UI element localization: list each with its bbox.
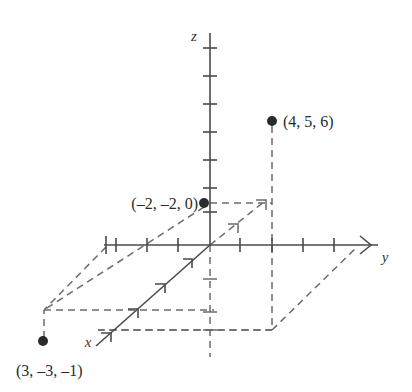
point-label-4-5-6: (4, 5, 6) bbox=[283, 113, 334, 131]
x-axis-negative-line bbox=[210, 201, 265, 245]
x-axis-negative bbox=[210, 200, 266, 245]
y-axis bbox=[104, 236, 378, 254]
plot-canvas: z y x (4, 5, 6) (–2, –2, 0) (3, –3, –1) bbox=[0, 0, 412, 392]
z-axis-positive bbox=[203, 33, 217, 245]
plotted-points bbox=[38, 116, 277, 346]
projection-guides bbox=[44, 126, 358, 338]
z-axis-label: z bbox=[190, 28, 197, 44]
point-label-3-neg3-neg1: (3, –3, –1) bbox=[16, 362, 83, 380]
guide-xyplane-456-to-y-axis bbox=[272, 246, 358, 330]
point-dot-3-neg3-neg1[interactable] bbox=[38, 336, 48, 346]
guide-diagonal-n2n20 bbox=[44, 207, 204, 310]
x-axis-positive-line bbox=[96, 245, 210, 346]
point-label-neg2-neg2-0: (–2, –2, 0) bbox=[131, 195, 198, 213]
x-axis-positive bbox=[96, 245, 210, 346]
x-axis-label: x bbox=[84, 334, 92, 350]
point-dot-4-5-6[interactable] bbox=[267, 116, 277, 126]
guide-left-diagonal-lower bbox=[44, 247, 106, 310]
x-tick-pos-1 bbox=[183, 259, 192, 268]
y-axis-label: y bbox=[380, 249, 389, 265]
z-axis-negative bbox=[203, 245, 217, 357]
coordinate-system-figure: z y x (4, 5, 6) (–2, –2, 0) (3, –3, –1) bbox=[0, 0, 412, 392]
point-dot-neg2-neg2-0[interactable] bbox=[199, 198, 209, 208]
